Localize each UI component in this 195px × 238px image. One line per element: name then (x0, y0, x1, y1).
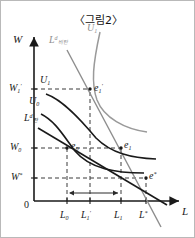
y-tick-w1-prime: W1′ (9, 83, 22, 93)
point-e0 (65, 146, 68, 149)
curve-u1 (46, 94, 156, 159)
x-axis-label: L (182, 206, 188, 217)
y-axis-label: W (13, 34, 22, 45)
figure-container: 〈그림2〉 (0, 0, 195, 238)
y-tick-w0: W0 (10, 142, 21, 152)
point-e1-prime (88, 87, 91, 90)
equilibrium-points (65, 87, 147, 179)
curve-label-ld-elastic: Ld탄 (24, 113, 38, 123)
origin-label: 0 (24, 200, 29, 210)
point-label-e1: e1 (124, 140, 131, 150)
curve-label-ld-inelastic: Ld비탄 (49, 35, 68, 45)
axis-lines (34, 37, 179, 201)
point-label-e1-prime: e1′ (94, 83, 103, 93)
curve-label-u1-prime: U1′ (87, 23, 99, 33)
point-e-star (144, 176, 147, 179)
x-tick-l1: L1 (114, 210, 123, 220)
curve-label-u0: U0 (29, 96, 39, 106)
point-label-e0: e0 (71, 141, 78, 151)
x-tick-l-star: L* (139, 210, 148, 220)
x-tick-l0: L0 (60, 210, 69, 220)
x-tick-l1-prime: L1′ (81, 210, 91, 220)
point-e1 (119, 146, 122, 149)
y-tick-w-star: W* (11, 172, 22, 182)
curve-label-u1: U1 (40, 75, 50, 85)
point-label-e-star: e* (149, 171, 156, 181)
